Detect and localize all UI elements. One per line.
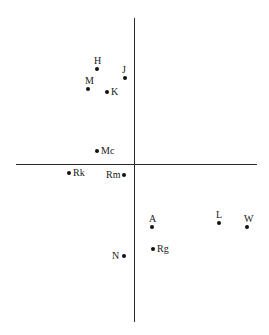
point-marker xyxy=(245,225,249,229)
point-label: N xyxy=(112,251,119,261)
point-label: Rg xyxy=(157,244,169,254)
point-label: M xyxy=(85,76,94,86)
point-marker xyxy=(67,171,71,175)
point-label: Mc xyxy=(101,146,114,156)
point-marker xyxy=(123,76,127,80)
horizontal-axis xyxy=(16,164,257,165)
point-marker xyxy=(217,221,221,225)
vertical-axis xyxy=(134,18,135,322)
point-marker xyxy=(151,247,155,251)
point-marker xyxy=(122,254,126,258)
point-label: J xyxy=(122,65,126,75)
point-label: W xyxy=(244,214,253,224)
point-marker xyxy=(95,149,99,153)
point-label: K xyxy=(111,87,118,97)
point-marker xyxy=(122,173,126,177)
point-marker xyxy=(95,67,99,71)
point-marker xyxy=(150,225,154,229)
point-label: A xyxy=(149,214,156,224)
point-label: Rm xyxy=(106,170,120,180)
point-label: H xyxy=(94,56,101,66)
point-marker xyxy=(105,90,109,94)
point-label: L xyxy=(216,210,222,220)
point-label: Rk xyxy=(73,168,85,178)
point-marker xyxy=(86,87,90,91)
scatter-diagram: HJMKMcRkRmALWRgN xyxy=(0,0,269,335)
